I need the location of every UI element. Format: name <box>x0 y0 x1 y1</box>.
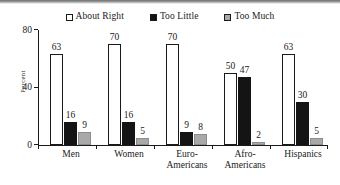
gray-square-swatch-icon <box>224 14 231 21</box>
bar-value-label: 70 <box>168 33 178 43</box>
x-axis-category-line: Hispanics <box>263 149 340 160</box>
bar-group-bars: 63305 <box>282 30 324 145</box>
bar[interactable]: 50 <box>224 73 237 145</box>
bar-group-bars: 7098 <box>166 30 208 145</box>
bar-group: 50472Afro-Americans <box>224 30 266 145</box>
bar[interactable]: 70 <box>108 44 121 145</box>
bar-value-label: 5 <box>140 127 145 137</box>
y-axis-line <box>38 30 39 145</box>
y-tick-label-80: 80 <box>16 26 32 36</box>
bar[interactable]: 63 <box>282 54 295 145</box>
bar-group-bars: 70165 <box>108 30 150 145</box>
bar-group: 70165Women <box>108 30 150 145</box>
y-tick-40 <box>34 87 38 88</box>
bar[interactable]: 5 <box>136 138 149 145</box>
legend-item-too-much: Too Much <box>224 12 274 22</box>
bar-group: 63169Men <box>50 30 92 145</box>
bar[interactable]: 30 <box>296 102 309 145</box>
bar-value-label: 9 <box>82 121 87 131</box>
chart-legend: About Right Too Little Too Much <box>0 10 340 24</box>
bar[interactable]: 2 <box>252 142 265 145</box>
legend-item-too-little: Too Little <box>150 12 199 22</box>
filled-black-square-swatch-icon <box>150 14 157 21</box>
bar-group-bars: 63169 <box>50 30 92 145</box>
bar[interactable]: 63 <box>50 54 63 145</box>
bar-value-label: 47 <box>240 66 250 76</box>
bar[interactable]: 47 <box>238 77 251 145</box>
bar-value-label: 70 <box>110 33 120 43</box>
plot-area: 04080 63169Men70165Women7098Euro-America… <box>38 30 328 145</box>
bar[interactable]: 16 <box>64 122 77 145</box>
legend-label-too-little: Too Little <box>160 12 199 22</box>
open-square-swatch-icon <box>66 14 73 21</box>
x-axis-category-label: Hispanics <box>263 149 340 160</box>
x-axis-category-line: Americans <box>205 160 285 171</box>
y-tick-label-0: 0 <box>16 141 32 151</box>
bar-value-label: 8 <box>198 123 203 133</box>
bar-value-label: 5 <box>314 127 319 137</box>
bar-value-label: 2 <box>256 131 261 141</box>
bar-value-label: 63 <box>284 43 294 53</box>
bar[interactable]: 9 <box>180 132 193 145</box>
y-tick-label-40: 40 <box>16 83 32 93</box>
bar[interactable]: 16 <box>122 122 135 145</box>
bar-value-label: 30 <box>298 91 308 101</box>
bar[interactable]: 8 <box>194 134 207 146</box>
legend-label-about-right: About Right <box>76 12 124 22</box>
x-axis-line <box>38 145 328 146</box>
bar[interactable]: 70 <box>166 44 179 145</box>
bar[interactable]: 5 <box>310 138 323 145</box>
legend-item-about-right: About Right <box>66 12 124 22</box>
bar-value-label: 9 <box>184 121 189 131</box>
legend-label-too-much: Too Much <box>234 12 274 22</box>
bar-group: 63305Hispanics <box>282 30 324 145</box>
bar-group: 7098Euro-Americans <box>166 30 208 145</box>
bar-group-bars: 50472 <box>224 30 266 145</box>
bar[interactable]: 9 <box>78 132 91 145</box>
bar-value-label: 16 <box>66 111 76 121</box>
bar-value-label: 63 <box>52 43 62 53</box>
y-tick-80 <box>34 29 38 30</box>
bar-value-label: 16 <box>124 111 134 121</box>
bar-value-label: 50 <box>226 62 236 72</box>
scan-artifact-band <box>0 0 340 4</box>
bar-chart: About Right Too Little Too Much Percent … <box>0 0 340 185</box>
